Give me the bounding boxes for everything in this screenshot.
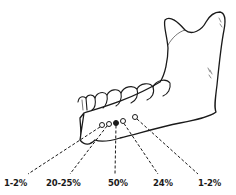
- mental-foramina: [100, 115, 138, 128]
- foramen-3: [114, 121, 119, 126]
- sigmoid-notch: [168, 30, 185, 45]
- mandible-diagram: [0, 0, 236, 195]
- foramen-1: [100, 123, 105, 128]
- foramen-2: [107, 122, 112, 127]
- ramus-texture: [208, 18, 222, 78]
- leader-lines: [28, 119, 198, 174]
- label-position-4: 24%: [153, 178, 173, 188]
- label-position-5: 1-2%: [198, 178, 221, 188]
- label-position-1: 1-2%: [4, 178, 27, 188]
- label-position-2: 20-25%: [46, 178, 81, 188]
- foramen-4: [121, 119, 126, 124]
- foramen-5: [133, 115, 138, 120]
- label-position-3: 50%: [108, 178, 128, 188]
